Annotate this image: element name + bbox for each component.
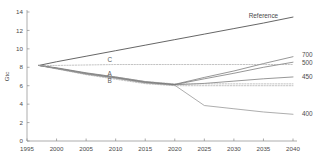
series-line-700: [39, 57, 293, 85]
annotation-labels-layer: CAB: [107, 56, 112, 84]
x-axis-ticks: 1995200020052010201520202025203020352040: [20, 139, 300, 153]
x-tick-label: 2020: [168, 145, 182, 152]
series-line-C: [39, 65, 293, 66]
annotation-label-B: B: [108, 77, 112, 84]
x-tick-label: 2000: [50, 145, 64, 152]
series-line-A: [39, 65, 293, 83]
emissions-scenarios-line-chart: 02468101214 1995200020052010201520202025…: [0, 0, 330, 167]
y-axis-ticks: 02468101214: [16, 8, 29, 144]
series-line-400: [39, 65, 293, 114]
y-axis-title: Gtc: [3, 72, 10, 82]
series-line-Reference: [39, 17, 293, 65]
y-tick-label: 4: [20, 100, 24, 107]
series-line-450: [39, 65, 293, 84]
x-tick-label: 2040: [286, 145, 300, 152]
y-tick-label: 0: [20, 137, 24, 144]
series-line-B: [39, 65, 293, 85]
series-label-400: 400: [302, 110, 313, 117]
series-label-500: 500: [302, 59, 313, 66]
x-axis: 1995200020052010201520202025203020352040: [20, 139, 300, 153]
y-tick-label: 12: [16, 27, 23, 34]
chart-container: 02468101214 1995200020052010201520202025…: [0, 0, 330, 167]
x-tick-label: 1995: [20, 145, 34, 152]
y-tick-label: 6: [20, 82, 24, 89]
y-axis: 02468101214: [16, 8, 29, 144]
x-tick-label: 2015: [138, 145, 152, 152]
x-tick-label: 2010: [109, 145, 123, 152]
series-label-450: 450: [302, 73, 313, 80]
y-tick-label: 10: [16, 45, 23, 52]
x-tick-label: 2035: [257, 145, 271, 152]
annotation-label-A: A: [108, 70, 113, 77]
y-tick-label: 2: [20, 119, 24, 126]
x-tick-label: 2030: [227, 145, 241, 152]
y-tick-label: 8: [20, 63, 24, 70]
x-tick-label: 2005: [79, 145, 93, 152]
x-tick-label: 2025: [197, 145, 211, 152]
annotation-label-C: C: [107, 56, 112, 63]
y-tick-label: 14: [16, 8, 23, 15]
series-lines-layer: [39, 17, 293, 114]
series-label-700: 700: [302, 51, 313, 58]
series-label-Reference: Reference: [249, 12, 279, 19]
